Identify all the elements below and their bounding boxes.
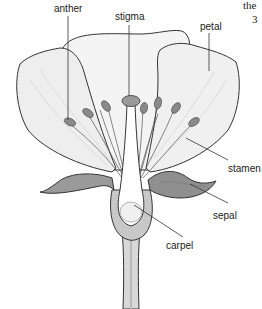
ovary (120, 202, 142, 222)
label-anther: anther (54, 3, 83, 14)
page-text-fragment-2: 3 (252, 13, 258, 25)
stigma-head (122, 96, 140, 107)
label-carpel: carpel (166, 240, 193, 251)
label-petal: petal (200, 21, 222, 32)
label-stigma: stigma (115, 11, 145, 22)
sepal-right (148, 171, 216, 198)
stem (122, 232, 140, 309)
sepal-left (40, 174, 114, 193)
label-stamen: stamen (228, 163, 261, 174)
page-text-fragment-1: the (243, 0, 257, 11)
flower-diagram: the 3 (0, 0, 262, 309)
label-sepal: sepal (213, 210, 237, 221)
